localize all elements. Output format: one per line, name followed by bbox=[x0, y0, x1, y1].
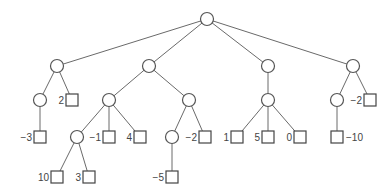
leaf-node bbox=[294, 131, 306, 143]
leaf-value-label: −2 bbox=[351, 95, 363, 106]
leaf-node bbox=[103, 131, 115, 143]
decision-node bbox=[34, 94, 47, 107]
leaf-value-label: 1 bbox=[223, 132, 229, 143]
tree-edge bbox=[149, 66, 189, 100]
leaf-value-label: −3 bbox=[21, 132, 33, 143]
leaf-value-label: −5 bbox=[153, 172, 165, 183]
leaf-node bbox=[51, 171, 63, 183]
leaf-node bbox=[262, 131, 274, 143]
decision-node bbox=[51, 60, 64, 73]
decision-node bbox=[262, 94, 275, 107]
root-node bbox=[201, 13, 214, 26]
tree-edge bbox=[57, 19, 207, 66]
decision-node bbox=[166, 131, 179, 144]
leaf-value-label: −10 bbox=[346, 132, 363, 143]
leaf-value-label: −1 bbox=[90, 132, 102, 143]
leaf-node bbox=[134, 131, 146, 143]
leaf-node bbox=[231, 131, 243, 143]
leaf-value-label: 5 bbox=[254, 132, 260, 143]
leaf-value-label: 0 bbox=[286, 132, 292, 143]
decision-node bbox=[103, 94, 116, 107]
leaf-value-label: 4 bbox=[126, 132, 132, 143]
leaf-value-label: 3 bbox=[75, 172, 81, 183]
tree-edges bbox=[40, 19, 370, 177]
tree-nodes bbox=[34, 13, 377, 184]
decision-node bbox=[331, 94, 344, 107]
leaf-value-label: 2 bbox=[58, 95, 64, 106]
tree-edge bbox=[207, 19, 268, 66]
leaf-node bbox=[34, 131, 46, 143]
decision-node bbox=[183, 94, 196, 107]
leaf-value-label: 10 bbox=[38, 172, 50, 183]
decision-node bbox=[262, 60, 275, 73]
decision-node bbox=[143, 60, 156, 73]
leaf-node bbox=[364, 94, 376, 106]
tree-edge bbox=[109, 66, 149, 100]
decision-node bbox=[347, 60, 360, 73]
leaf-node bbox=[166, 171, 178, 183]
decision-node bbox=[71, 131, 84, 144]
leaf-node bbox=[83, 171, 95, 183]
tree-edge bbox=[207, 19, 353, 66]
leaf-node bbox=[199, 131, 211, 143]
tree-edge bbox=[149, 19, 207, 66]
leaf-value-label: −2 bbox=[186, 132, 198, 143]
game-tree-diagram: 2−2−3−14−2150−10103−5 bbox=[0, 0, 392, 196]
leaf-node bbox=[66, 94, 78, 106]
leaf-node bbox=[331, 131, 343, 143]
